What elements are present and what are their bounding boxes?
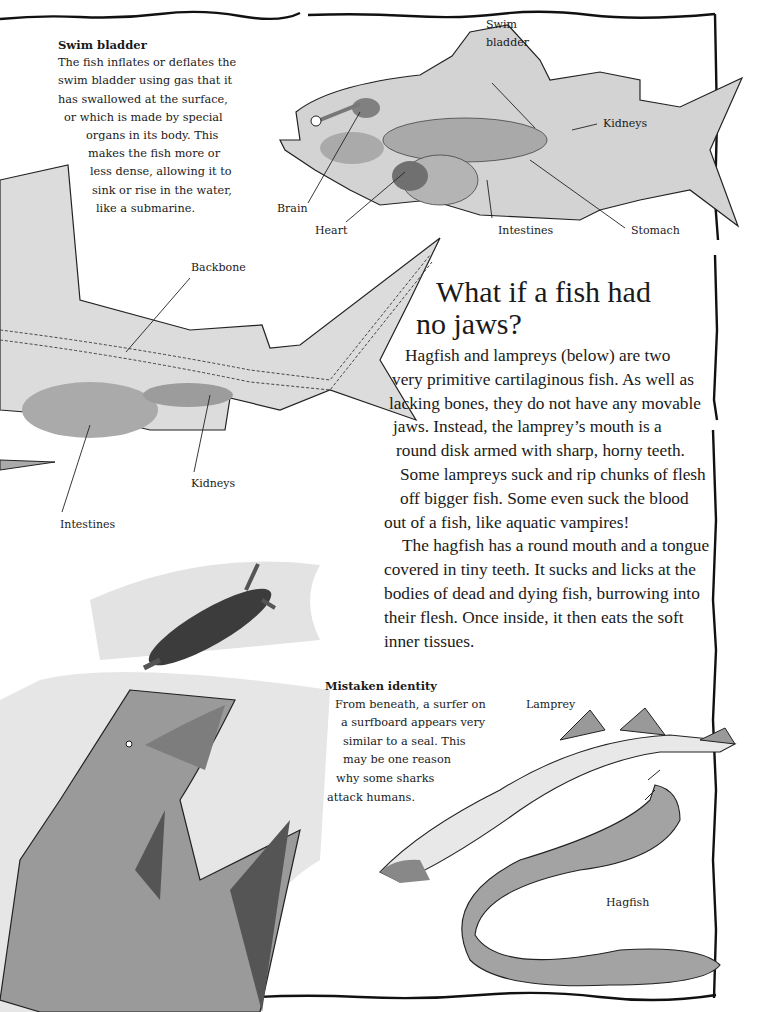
heading-line: no jaws? <box>416 308 651 340</box>
label-swim-bladder: Swim bladder <box>486 16 529 52</box>
body-line: The hagfish has a round mouth and a tong… <box>384 534 734 558</box>
label-backbone: Backbone <box>191 261 246 274</box>
caption-line: The fish inflates or deflates the <box>58 54 298 72</box>
label-hagfish: Hagfish <box>606 896 649 909</box>
label-lamprey: Lamprey <box>526 698 575 711</box>
article-heading: What if a fish had no jaws? <box>436 276 651 340</box>
caption-line: a surfboard appears very <box>325 714 486 733</box>
caption-line: sink or rise in the water, <box>58 182 298 200</box>
caption-line: attack humans. <box>325 789 486 808</box>
caption-line: like a submarine. <box>58 200 298 218</box>
label-text: Swim <box>486 16 529 34</box>
body-line: jaws. Instead, the lamprey’s mouth is a <box>384 415 734 439</box>
swim-bladder-caption: Swim bladder The fish inflates or deflat… <box>58 36 298 218</box>
book-page: Swim bladder The fish inflates or deflat… <box>0 0 763 1012</box>
caption-line: swim bladder using gas that it <box>58 72 298 90</box>
body-line: their flesh. Once inside, it then eats t… <box>384 606 734 630</box>
article-body: Hagfish and lampreys (below) are two ver… <box>384 344 734 653</box>
body-line: covered in tiny teeth. It sucks and lick… <box>384 558 734 582</box>
mistaken-identity-caption: Mistaken identity From beneath, a surfer… <box>325 677 486 807</box>
body-line: inner tissues. <box>384 630 734 654</box>
label-stomach: Stomach <box>631 224 680 237</box>
body-line: round disk armed with sharp, horny teeth… <box>384 439 734 463</box>
body-line: Hagfish and lampreys (below) are two <box>384 344 734 368</box>
body-line: very primitive cartilaginous fish. As we… <box>384 368 734 392</box>
caption-line: has swallowed at the surface, <box>58 91 298 109</box>
label-heart: Heart <box>315 224 347 237</box>
label-brain: Brain <box>277 202 308 215</box>
label-text: bladder <box>486 34 529 52</box>
bony-fish-illustration <box>280 25 742 228</box>
body-line: Some lampreys suck and rip chunks of fle… <box>384 463 734 487</box>
mistaken-identity-title: Mistaken identity <box>325 677 486 696</box>
body-line: off bigger fish. Some even suck the bloo… <box>384 487 734 511</box>
caption-line: may be one reason <box>325 751 486 770</box>
great-white-shark-illustration <box>0 672 330 1012</box>
caption-line: organs in its body. This <box>58 127 298 145</box>
body-line: bodies of dead and dying fish, burrowing… <box>384 582 734 606</box>
label-kidneys-fish: Kidneys <box>603 117 647 130</box>
caption-line: less dense, allowing it to <box>58 163 298 181</box>
label-intestines-fish: Intestines <box>498 224 553 237</box>
label-kidneys-shark: Kidneys <box>191 477 235 490</box>
caption-line: similar to a seal. This <box>325 733 486 752</box>
caption-line: or which is made by special <box>58 109 298 127</box>
surfer-illustration <box>90 562 320 678</box>
heading-line: What if a fish had <box>436 276 651 308</box>
body-line: lacking bones, they do not have any mova… <box>384 392 734 416</box>
caption-line: From beneath, a surfer on <box>325 696 486 715</box>
body-line: out of a fish, like aquatic vampires! <box>384 511 734 535</box>
label-intestines-shark: Intestines <box>60 518 115 531</box>
caption-line: why some sharks <box>325 770 486 789</box>
caption-line: makes the fish more or <box>58 145 298 163</box>
swim-bladder-title: Swim bladder <box>58 36 298 54</box>
